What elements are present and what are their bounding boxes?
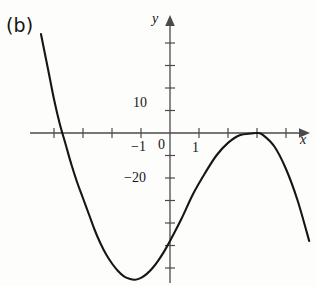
y-tick-label-10: 10: [133, 96, 147, 110]
x-axis-label: x: [300, 133, 306, 147]
figure-panel-b: (b) y x 10 −20 −1 0 1: [0, 0, 316, 286]
y-tick-label-minus-20: −20: [124, 171, 146, 185]
x-tick-label-0: 0: [158, 138, 165, 152]
y-axis-label: y: [152, 12, 158, 26]
y-axis-arrowhead: [165, 15, 175, 26]
function-curve: [41, 34, 309, 280]
panel-label: (b): [6, 16, 34, 35]
x-tick-label-1: 1: [192, 141, 199, 155]
x-tick-label-minus-1: −1: [131, 140, 146, 154]
